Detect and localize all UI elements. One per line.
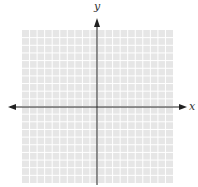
y-axis-up-arrow-icon — [94, 18, 100, 27]
x-axis-left-arrow-icon — [8, 104, 16, 110]
y-axis-label: y — [94, 0, 100, 13]
x-axis-label: x — [189, 100, 195, 113]
x-axis-right-arrow-icon — [179, 104, 187, 110]
coordinate-plane — [0, 0, 198, 187]
